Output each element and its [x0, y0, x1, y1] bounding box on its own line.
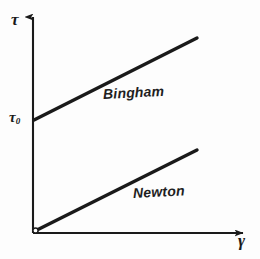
curve-group	[34, 38, 197, 231]
x-axis-label-symbol: γ	[238, 231, 245, 250]
flow-curve-figure: τ γ τ0 Bingham Newton	[0, 0, 260, 259]
newton-curve-label: Newton	[133, 183, 185, 200]
plot-canvas	[0, 0, 260, 259]
yield-stress-symbol: τ	[9, 109, 16, 125]
bingham-line	[34, 38, 197, 120]
x-axis-label: γ	[238, 232, 245, 249]
origin-marker	[33, 228, 38, 233]
y-axis-label: τ	[11, 11, 19, 28]
yield-stress-label: τ0	[9, 110, 20, 126]
bingham-curve-label: Bingham	[103, 84, 165, 101]
yield-stress-subscript: 0	[16, 116, 21, 126]
